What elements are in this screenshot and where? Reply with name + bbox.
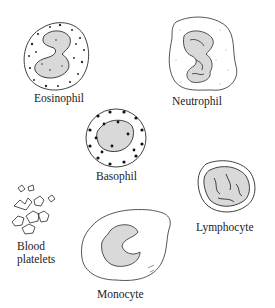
label-neutrophil: Neutrophil bbox=[172, 95, 222, 108]
label-basophil: Basophil bbox=[96, 170, 137, 183]
neutrophil-drawing bbox=[169, 17, 237, 90]
lymphocyte-drawing bbox=[198, 161, 255, 212]
eosinophil-drawing bbox=[24, 23, 89, 90]
monocyte-drawing bbox=[81, 210, 170, 281]
platelets-drawing bbox=[12, 185, 55, 234]
label-blood-platelets: Blood platelets bbox=[17, 240, 55, 266]
basophil-drawing bbox=[86, 109, 146, 167]
label-eosinophil: Eosinophil bbox=[34, 92, 84, 105]
blood-cells-diagram: Eosinophil Neutrophil Basophil Blood pla… bbox=[0, 0, 275, 308]
label-lymphocyte: Lymphocyte bbox=[196, 221, 254, 234]
label-monocyte: Monocyte bbox=[97, 288, 144, 301]
